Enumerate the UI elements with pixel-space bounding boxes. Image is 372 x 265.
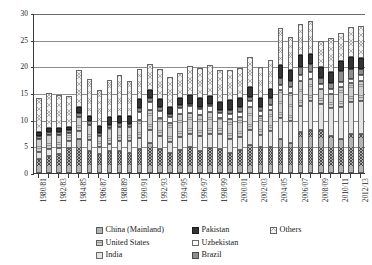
bar-1983/84[interactable] <box>66 96 72 173</box>
bar-segment-india <box>127 141 133 153</box>
bar-1993/94[interactable] <box>167 77 173 173</box>
legend-item-others[interactable]: Others <box>270 226 330 234</box>
bar-segment-brazil <box>298 67 304 75</box>
bar-segment-united-states <box>197 115 203 137</box>
bar-segment-pakistan <box>107 117 113 125</box>
bar-1992/93[interactable] <box>157 68 163 173</box>
bar-segment-others <box>268 60 274 89</box>
legend-item-india[interactable]: India <box>96 251 192 259</box>
x-axis-tick-label: 1986/87 <box>101 178 108 202</box>
bar-segment-china-mainland <box>348 134 354 173</box>
bar-1984/85[interactable] <box>76 70 82 173</box>
bar-segment-united-states <box>36 139 42 152</box>
x-axis-tick-label: 2008/09 <box>323 178 330 202</box>
x-axis-tick-label: 1988/89 <box>122 178 129 202</box>
bar-segment-others <box>107 80 113 117</box>
bar-segment-others <box>177 73 183 98</box>
bar-2009/10[interactable] <box>328 38 334 173</box>
bar-1985/86[interactable] <box>87 79 93 173</box>
x-axis-tick-label: 1996/97 <box>202 178 209 202</box>
bar-1980/81[interactable] <box>36 98 42 173</box>
x-axis-tick-label: 2012/13 <box>363 178 370 202</box>
bar-segment-pakistan <box>117 116 123 123</box>
bar-segment-united-states <box>288 93 294 121</box>
x-axis-tick-label: 2006/07 <box>303 178 310 202</box>
legend-item-uzbekistan[interactable]: Uzbekistan <box>192 239 270 247</box>
bar-1999/00[interactable] <box>227 70 233 173</box>
bar-1987/88[interactable] <box>107 80 113 173</box>
bar-1995/96[interactable] <box>187 66 193 173</box>
bar-2003/04[interactable] <box>268 60 274 173</box>
bar-segment-others <box>358 26 364 57</box>
bar-segment-others <box>56 95 62 128</box>
bar-segment-pakistan <box>177 98 183 105</box>
bar-segment-china-mainland <box>97 154 103 173</box>
bar-2007/08[interactable] <box>308 20 314 173</box>
y-axis-tick-label: 25 <box>14 37 28 44</box>
bar-1988/89[interactable] <box>117 75 123 173</box>
bar-1991/92[interactable] <box>147 64 153 173</box>
legend-item-pakistan[interactable]: Pakistan <box>192 226 270 234</box>
bar-2001/02[interactable] <box>247 57 253 173</box>
bar-1997/98[interactable] <box>207 65 213 173</box>
bar-1994/95[interactable] <box>177 73 183 173</box>
bar-segment-united-states <box>127 127 133 141</box>
bar-segment-pakistan <box>197 98 203 107</box>
bar-1998/99[interactable] <box>217 70 223 173</box>
bar-2010/11[interactable] <box>338 33 344 173</box>
bar-segment-uzbekistan <box>157 111 163 118</box>
bar-segment-india <box>338 107 344 138</box>
bar-2002/03[interactable] <box>258 67 264 173</box>
bar-segment-others <box>328 38 334 72</box>
bar-segment-united-states <box>278 90 284 117</box>
legend-item-united-states[interactable]: United States <box>96 239 192 247</box>
bar-segment-india <box>227 139 233 153</box>
legend-item-china-mainland[interactable]: China (Mainland) <box>96 226 192 234</box>
bar-segment-united-states <box>187 113 193 134</box>
legend-swatch-icon <box>192 227 199 234</box>
bar-segment-china-mainland <box>127 153 133 173</box>
bar-1986/87[interactable] <box>97 90 103 173</box>
bar-2012/13[interactable] <box>358 26 364 173</box>
x-axis-tick-label: 1992/93 <box>162 178 169 202</box>
bar-segment-pakistan <box>298 55 304 67</box>
x-axis-tick-label: 1990/91 <box>142 178 149 202</box>
bar-segment-china-mainland <box>167 153 173 173</box>
bar-segment-others <box>227 70 233 100</box>
bar-segment-others <box>338 33 344 61</box>
bar-2004/05[interactable] <box>278 28 284 173</box>
bar-2006/07[interactable] <box>298 24 304 173</box>
bar-segment-united-states <box>66 133 72 141</box>
bar-segment-united-states <box>147 110 153 130</box>
bar-segment-united-states <box>117 127 123 141</box>
legend-label: China (Mainland) <box>106 226 164 234</box>
legend-label: Others <box>280 226 302 234</box>
bar-segment-others <box>127 81 133 116</box>
legend-item-brazil[interactable]: Brazil <box>192 251 270 259</box>
bar-segment-others <box>197 68 203 98</box>
bar-1990/91[interactable] <box>137 69 143 173</box>
bar-segment-brazil <box>268 98 274 105</box>
bar-1982/83[interactable] <box>56 95 62 173</box>
legend-label: Pakistan <box>202 226 230 234</box>
bar-segment-united-states <box>157 118 163 137</box>
bar-2000/01[interactable] <box>237 68 243 173</box>
bar-segment-united-states <box>87 125 93 140</box>
bar-2011/12[interactable] <box>348 27 354 173</box>
bar-segment-others <box>217 70 223 103</box>
bar-1981/82[interactable] <box>46 92 52 173</box>
bar-segment-others <box>137 69 143 99</box>
bar-1989/90[interactable] <box>127 81 133 173</box>
bar-segment-china-mainland <box>36 159 42 173</box>
bar-segment-united-states <box>76 117 82 131</box>
bar-2008/09[interactable] <box>318 41 324 173</box>
bar-segment-china-mainland <box>147 143 153 173</box>
x-axis-tick-label: 1998/99 <box>222 178 229 202</box>
bar-1996/97[interactable] <box>197 68 203 173</box>
bar-segment-india <box>348 102 354 134</box>
bar-segment-china-mainland <box>358 134 364 173</box>
bar-segment-united-states <box>177 114 183 137</box>
bar-segment-pakistan <box>127 116 133 124</box>
bar-2005/06[interactable] <box>288 36 294 173</box>
bar-segment-united-states <box>237 117 243 137</box>
